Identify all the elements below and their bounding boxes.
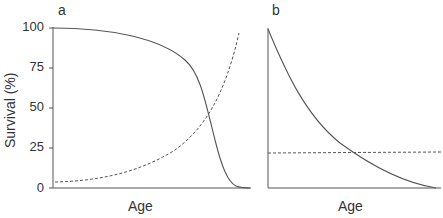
panel-a-survival-line [53,28,250,188]
chart-canvas [0,0,443,218]
panel-a-axes [49,27,251,188]
panel-a-dashed-line [55,33,239,182]
panel-b-survival-line [268,29,436,188]
panel-b-axes [268,28,441,188]
panel-b-dashed-line [268,152,441,153]
